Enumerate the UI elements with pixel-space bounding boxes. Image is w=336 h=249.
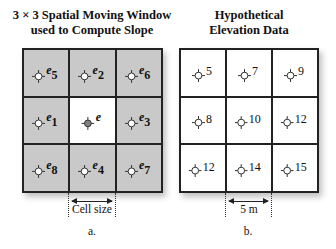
moving-window-grid: e5 e2 e6 e1 e e3 e8 e4 e7: [22, 48, 163, 193]
point-marker-icon: [192, 117, 205, 130]
elevation-value: 15: [295, 161, 307, 173]
cell-label: e7: [139, 159, 150, 176]
elevation-value: 12: [203, 161, 215, 173]
point-marker-icon: [125, 117, 138, 130]
elevation-value: 10: [249, 113, 261, 125]
elevation-cell: 10: [226, 97, 272, 145]
cell-e8: e8: [23, 144, 69, 192]
elevation-cell: 14: [226, 144, 272, 192]
point-marker-icon: [189, 164, 202, 177]
point-marker-icon: [125, 165, 138, 178]
elevation-value: 14: [249, 161, 261, 173]
elevation-value: 7: [252, 65, 258, 77]
cell-e1: e1: [23, 97, 69, 145]
elevation-value: 5: [206, 65, 212, 77]
point-marker-icon: [32, 117, 45, 130]
cell-label: e1: [46, 111, 57, 128]
dimension-line-right-b: [271, 193, 272, 217]
elevation-cell: 8: [180, 97, 226, 145]
center-point-marker-icon: [82, 117, 95, 130]
point-marker-icon: [281, 117, 294, 130]
cell-e2: e2: [69, 49, 115, 97]
panel-a-title-line2: used to Compute Slope: [4, 23, 180, 38]
point-marker-icon: [192, 69, 205, 82]
dimension-line-left-b: [225, 193, 226, 217]
elevation-value: 8: [206, 113, 212, 125]
cell-size-label: Cell size: [62, 203, 122, 215]
caption-b: b.: [238, 225, 258, 237]
point-marker-icon: [235, 117, 248, 130]
point-marker-icon: [32, 165, 45, 178]
point-marker-icon: [79, 70, 92, 83]
panel-b-title-line2: Elevation Data: [180, 23, 318, 38]
point-marker-icon: [238, 69, 251, 82]
elevation-value: 12: [295, 113, 307, 125]
point-marker-icon: [125, 70, 138, 83]
point-marker-icon: [79, 165, 92, 178]
elevation-cell: 15: [272, 144, 318, 192]
elevation-cell: 9: [272, 49, 318, 97]
cell-label: e: [96, 111, 101, 128]
point-marker-icon: [32, 70, 45, 83]
cell-e5: e5: [23, 49, 69, 97]
cell-e7: e7: [116, 144, 162, 192]
elevation-grid: 5 7 9 8 10 12 12 14 15: [179, 48, 319, 193]
cell-label: e3: [139, 111, 150, 128]
point-marker-icon: [284, 69, 297, 82]
cell-e3: e3: [116, 97, 162, 145]
cell-label: e5: [46, 64, 57, 81]
cell-e6: e6: [116, 49, 162, 97]
elevation-cell: 12: [272, 97, 318, 145]
cell-e4: e4: [69, 144, 115, 192]
panel-a-title-line1: 3 × 3 Spatial Moving Window: [4, 8, 180, 23]
elevation-cell: 12: [180, 144, 226, 192]
double-arrow-icon: [229, 201, 268, 202]
caption-a: a.: [82, 225, 102, 237]
point-marker-icon: [281, 164, 294, 177]
panel-a-title: 3 × 3 Spatial Moving Window used to Comp…: [4, 8, 180, 38]
point-marker-icon: [235, 164, 248, 177]
double-arrow-icon: [72, 201, 112, 202]
cell-label: e2: [93, 64, 104, 81]
panel-b-title-line1: Hypothetical: [180, 8, 318, 23]
cell-label: e4: [93, 159, 104, 176]
cell-label: e8: [46, 159, 57, 176]
distance-label: 5 m: [228, 203, 270, 215]
elevation-cell: 7: [226, 49, 272, 97]
elevation-value: 9: [298, 65, 304, 77]
panel-b-title: Hypothetical Elevation Data: [180, 8, 318, 38]
elevation-cell: 5: [180, 49, 226, 97]
cell-label: e6: [139, 64, 150, 81]
cell-e-center: e: [69, 97, 115, 145]
